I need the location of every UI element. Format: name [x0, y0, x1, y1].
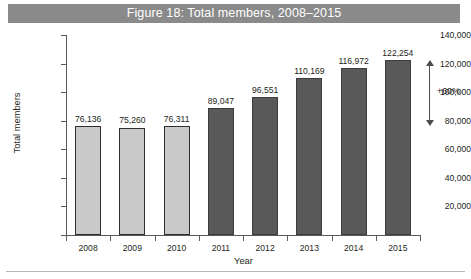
x-axis-category-label: 2015 — [373, 243, 423, 253]
arrow-head-down-icon — [426, 120, 434, 126]
bottom-divider — [6, 271, 465, 272]
arrow-shaft — [429, 63, 430, 123]
figure-container: Figure 18: Total members, 2008–2015 Tota… — [0, 0, 471, 279]
bar-value-label: 96,551 — [240, 85, 290, 95]
x-axis-tick — [110, 236, 111, 241]
y-axis-tick-label: 20,000 — [413, 201, 471, 211]
x-axis-tick — [199, 236, 200, 241]
y-axis-tick-label: 80,000 — [413, 116, 471, 126]
x-axis-tick — [66, 236, 67, 241]
x-axis-tick — [376, 236, 377, 241]
bar-2013 — [296, 78, 322, 235]
x-axis-category-label: 2010 — [152, 243, 202, 253]
bar-2011 — [208, 108, 234, 235]
bar-2015 — [385, 60, 411, 235]
y-axis-tick-label: 60,000 — [413, 144, 471, 154]
bar-value-label: 122,254 — [373, 48, 423, 58]
growth-arrow-icon — [425, 60, 434, 126]
bar-value-label: 110,169 — [284, 66, 334, 76]
x-axis-tick — [332, 236, 333, 241]
y-axis-tick-label: 140,000 — [413, 30, 471, 40]
bar-2010 — [164, 126, 190, 235]
x-axis-tick — [420, 236, 421, 241]
bar-2012 — [252, 97, 278, 235]
x-axis-category-label: 2009 — [107, 243, 157, 253]
x-axis-category-label: 2012 — [240, 243, 290, 253]
bar-2008 — [75, 126, 101, 235]
bar-value-label: 75,260 — [107, 115, 157, 125]
x-axis-tick — [287, 236, 288, 241]
bar-2009 — [119, 128, 145, 236]
y-axis-tick-label: 120,000 — [413, 59, 471, 69]
bar-value-label: 76,311 — [152, 114, 202, 124]
x-axis-category-label: 2013 — [284, 243, 334, 253]
y-axis-title: Total members — [12, 73, 22, 173]
growth-annotation-label: +60% — [437, 86, 460, 96]
figure-title: Figure 18: Total members, 2008–2015 — [8, 4, 460, 23]
bar-2014 — [341, 68, 367, 235]
x-axis-tick — [243, 236, 244, 241]
x-axis-category-label: 2014 — [329, 243, 379, 253]
bar-value-label: 116,972 — [329, 56, 379, 66]
x-axis-title: Year — [66, 256, 421, 266]
bar-value-label: 76,136 — [63, 114, 113, 124]
x-axis-category-label: 2008 — [63, 243, 113, 253]
bar-value-label: 89,047 — [196, 96, 246, 106]
x-axis-category-label: 2011 — [196, 243, 246, 253]
x-axis-tick — [155, 236, 156, 241]
y-axis-tick-label: 40,000 — [413, 173, 471, 183]
